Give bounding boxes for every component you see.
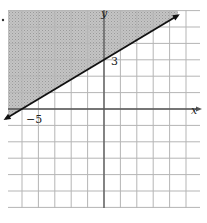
y-axis-label: y — [100, 7, 108, 20]
x-intercept-label: −5 — [26, 113, 42, 126]
bullet-dot — [2, 19, 4, 21]
x-axis-label: x — [191, 104, 198, 117]
inequality-graph: x y −5 3 — [0, 0, 207, 223]
y-intercept-label: 3 — [111, 55, 118, 68]
